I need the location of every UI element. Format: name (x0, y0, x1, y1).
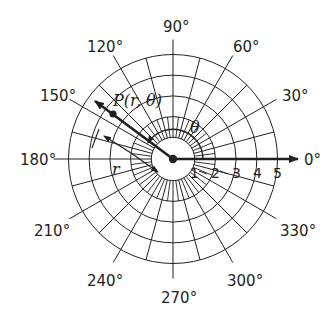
spoke-255 (146, 180, 167, 260)
angle-label-270: 270° (161, 289, 197, 307)
ring-label-1: 1 (190, 165, 199, 181)
spoke-225 (99, 174, 158, 233)
angle-label-150: 150° (40, 87, 76, 105)
angle-label-90: 90° (163, 18, 190, 36)
spoke-15 (194, 132, 274, 153)
pole-dot (169, 155, 177, 163)
ring-label-5: 5 (273, 165, 282, 181)
spoke-30 (192, 99, 277, 148)
angle-label-330: 330° (280, 222, 316, 240)
angle-label-120: 120° (87, 38, 123, 56)
r-label: r (112, 160, 121, 179)
spoke-300 (184, 178, 233, 263)
angle-label-300: 300° (227, 272, 263, 290)
angle-label-60: 60° (233, 38, 260, 56)
spoke-285 (179, 180, 200, 260)
point-p-dot (109, 110, 116, 117)
theta-label: θ (190, 118, 200, 137)
ring-label-2: 2 (211, 165, 220, 181)
angle-label-210: 210° (34, 222, 70, 240)
point-label: P(r, θ) (112, 91, 162, 110)
angle-label-240: 240° (87, 272, 123, 290)
polar-diagram: P(r, θ) θ r 1 2 3 4 5 0° 30° 60° 90° 120… (0, 0, 334, 323)
angle-label-180: 180° (20, 151, 56, 169)
r-dimension-arrow (104, 136, 131, 153)
ring-label-3: 3 (232, 165, 241, 181)
spoke-240 (113, 178, 162, 263)
angle-label-30: 30° (282, 87, 309, 105)
ring-label-4: 4 (253, 165, 262, 181)
angle-label-0: 0° (304, 151, 321, 169)
spoke-315 (188, 174, 247, 233)
